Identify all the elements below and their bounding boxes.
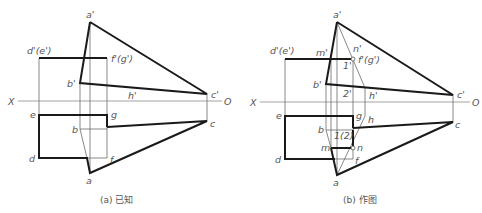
caption-b: (b) 作图 (343, 194, 377, 205)
caption-a: (a) 已知 (100, 194, 133, 205)
label-d: d (29, 153, 36, 164)
label-g: g (111, 109, 117, 120)
label-1-2: 1(2) (334, 130, 354, 141)
label-e: e (276, 110, 282, 121)
label-h-prime: h' (369, 90, 378, 101)
label-f: f (110, 154, 115, 165)
label-n-prime: n' (353, 43, 362, 54)
top-view-outline (39, 115, 207, 173)
label-d-e-prime: d'(e') (270, 45, 295, 56)
label-b-prime: b' (313, 79, 322, 90)
label-e: e (30, 109, 36, 120)
label-d-e-prime: d'(e') (27, 45, 52, 56)
b-to-ab-line (80, 129, 87, 158)
label-d: d (275, 154, 282, 165)
label-h: h (368, 114, 374, 125)
label-1-prime: 1' (343, 60, 352, 71)
label-m-prime: m' (316, 47, 328, 58)
label-b: b (318, 124, 324, 135)
label-c-prime: c' (211, 89, 219, 100)
label-c: c (455, 119, 461, 130)
label-2-prime: 2' (343, 88, 352, 99)
label-m: m (321, 142, 330, 153)
label-h-prime: h' (128, 90, 137, 101)
label-c-prime: c' (457, 89, 465, 100)
label-a: a (333, 177, 339, 188)
label-a-prime: a' (333, 9, 341, 20)
label-x-axis: X (7, 96, 15, 107)
label-x-axis: X (249, 97, 257, 108)
label-f-g-prime: f'(g') (358, 54, 380, 65)
label-n: n (357, 142, 363, 153)
label-a: a (86, 175, 92, 186)
point-n-marker (351, 146, 355, 150)
panel-b: a' d'(e') m' n' 1' f'(g') b' 2' h' c' X … (249, 9, 480, 205)
label-f-g-prime: f'(g') (111, 53, 133, 64)
label-c: c (210, 118, 216, 129)
label-o-axis: O (472, 97, 480, 108)
label-b-prime: b' (67, 78, 76, 89)
label-a-prime: a' (86, 9, 94, 20)
label-o-axis: O (224, 96, 232, 107)
panel-a: a' d'(e') f'(g') b' h' c' X O e g b c d … (7, 9, 232, 205)
projection-drawing: a' d'(e') f'(g') b' h' c' X O e g b c d … (0, 0, 482, 213)
label-g: g (356, 110, 362, 121)
label-b: b (72, 124, 78, 135)
